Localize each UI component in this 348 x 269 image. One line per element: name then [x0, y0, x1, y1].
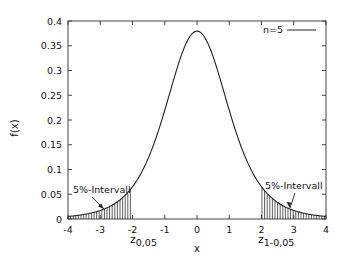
- x-tick-label: 3: [291, 224, 297, 235]
- x-tick-label: 1: [226, 224, 232, 235]
- y-tick-label: 0.05: [41, 189, 62, 200]
- y-tick-label: 0.15: [41, 139, 62, 150]
- legend-label: n=5: [263, 24, 283, 35]
- x-tick-label: 0: [194, 224, 200, 235]
- y-tick-label: 0.35: [41, 40, 62, 51]
- x-tick-label: 4: [323, 224, 329, 235]
- z-left-label: z0,05: [130, 233, 157, 248]
- right-interval-annotation: 5%-Intervall: [265, 180, 323, 208]
- left-interval-label: 5%-Intervall: [73, 184, 131, 195]
- y-tick-label: 0: [56, 214, 62, 225]
- left-interval-annotation: 5%-Intervall: [73, 184, 131, 209]
- y-tick-label: 0.1: [47, 164, 62, 175]
- legend: n=5: [263, 24, 316, 35]
- right-interval-label: 5%-Intervall: [265, 180, 323, 191]
- z-left-subscript: 0,05: [136, 237, 157, 248]
- svg-text:z0,05: z0,05: [130, 233, 157, 248]
- svg-text:z1-0,05: z1-0,05: [258, 233, 294, 248]
- x-tick-label: -4: [63, 224, 72, 235]
- y-tick-label: 0.2: [47, 115, 62, 126]
- z-right-subscript: 1-0,05: [264, 237, 295, 248]
- y-axis-label: f(x): [9, 119, 20, 136]
- z-right-label: z1-0,05: [258, 233, 294, 248]
- x-tick-label: -3: [96, 224, 105, 235]
- x-axis-label: x: [194, 243, 200, 254]
- y-tick-label: 0.25: [41, 90, 62, 101]
- right-interval-arrow: [290, 193, 295, 208]
- x-tick-label: -1: [160, 224, 169, 235]
- y-tick-label: 0.4: [47, 16, 62, 27]
- y-tick-label: 0.3: [47, 65, 62, 76]
- t-distribution-chart: 00.050.10.150.20.250.30.350.4 -4-3-2-101…: [0, 0, 348, 269]
